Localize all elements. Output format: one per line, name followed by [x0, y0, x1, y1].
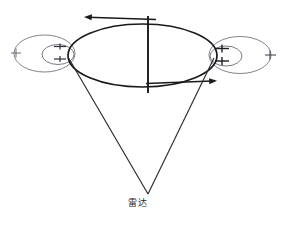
- right-outer-ellipse: [209, 37, 271, 74]
- left-ellipse-group: [11, 35, 75, 72]
- left-outer-ellipse: [14, 35, 75, 72]
- bottom-right-arrow: [146, 78, 217, 84]
- top-left-arrow: [84, 14, 156, 20]
- radar-beam-left-edge: [68, 57, 148, 194]
- right-ellipse-group: [209, 37, 276, 74]
- radar-label: 雷达: [128, 199, 147, 208]
- radar-vortex-diagram: 雷达: [0, 0, 287, 225]
- right-vertex-tick-icon: [265, 51, 276, 60]
- left-inner-tick-lower-icon: [54, 56, 66, 62]
- radar-beam-right-edge: [148, 58, 214, 194]
- diagram-canvas: [0, 0, 287, 225]
- main-ellipse: [68, 24, 217, 87]
- left-vertex-tick-icon: [11, 49, 21, 58]
